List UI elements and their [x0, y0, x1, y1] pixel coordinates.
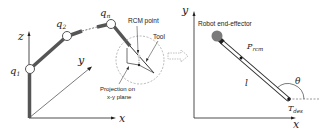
y-axis: [29, 68, 90, 118]
right-panel: y x Robot end-effector Prcm l θ Tdes: [181, 4, 320, 131]
joint-qn: [107, 20, 116, 29]
length-label: l: [245, 78, 248, 88]
tool-shaft: [130, 46, 154, 73]
t-des-label: Tdes: [288, 104, 303, 114]
transition-arrow-icon: [168, 50, 188, 62]
projection-lines: [127, 48, 154, 73]
rcm-point-marker: [138, 55, 141, 58]
right-y-axis-arrow-icon: [193, 11, 196, 16]
p-rcm-label: Prcm: [246, 42, 263, 52]
tool-callout-line: [147, 41, 158, 60]
joint-q2: [63, 32, 72, 41]
right-y-axis-label: y: [181, 4, 189, 17]
q1-label: q1: [10, 65, 20, 77]
link-1: [30, 37, 66, 69]
projection-callout-line: [119, 68, 128, 84]
robot-rcm-diagram: z y x q1 q2 qn RCM point: [0, 0, 330, 133]
link-ellipsis: [82, 27, 97, 31]
projection-label-line2: x-y plane: [107, 94, 132, 100]
left-panel: z y x q1 q2 qn RCM point: [10, 7, 165, 125]
theta-label: θ: [295, 76, 301, 86]
q2-label: q2: [56, 18, 66, 30]
z-axis-label: z: [17, 30, 24, 43]
right-x-axis-label: x: [293, 118, 300, 131]
p-rcm-point: [240, 57, 243, 60]
rcm-point-label: RCM point: [128, 17, 159, 25]
projection-callout-arrow-icon: [126, 66, 129, 70]
end-effector-ball: [212, 31, 223, 42]
tool-label: Tool: [153, 33, 165, 40]
projection-point-marker: [138, 64, 140, 66]
x-axis-arrow-icon: [111, 117, 116, 120]
y-axis-label: y: [77, 54, 85, 67]
rcm-callout-line: [137, 26, 138, 52]
qn-label: qn: [100, 7, 110, 19]
tool-callout-arrow-icon: [146, 58, 149, 62]
joint-q1: [26, 65, 35, 74]
end-effector-label: Robot end-effector: [198, 20, 253, 27]
z-axis-arrow-icon: [28, 31, 31, 36]
projection-label-line1: Projection on: [100, 86, 135, 92]
x-axis-label: x: [119, 112, 126, 125]
y-axis-arrow-icon: [87, 67, 92, 72]
